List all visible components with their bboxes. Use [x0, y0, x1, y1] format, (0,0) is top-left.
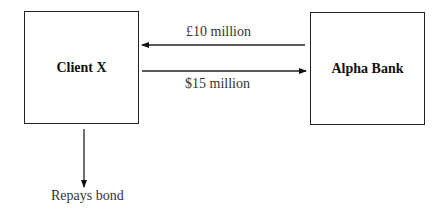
client-x-box: Client X: [24, 11, 139, 124]
alpha-bank-label: Alpha Bank: [332, 61, 404, 77]
client-x-label: Client X: [56, 60, 106, 76]
alpha-bank-box: Alpha Bank: [310, 12, 425, 125]
gbp-amount-label: £10 million: [186, 24, 251, 40]
usd-amount-label: $15 million: [185, 76, 250, 92]
repays-bond-label: Repays bond: [51, 188, 124, 204]
